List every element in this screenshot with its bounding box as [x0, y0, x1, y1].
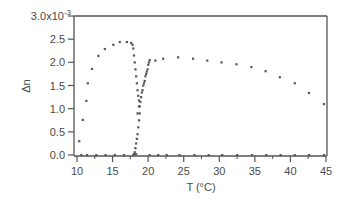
- chart: 1015202530354045 0.00.51.01.52.02.53.0x1…: [0, 0, 347, 203]
- data-point: [146, 68, 148, 70]
- data-point: [138, 119, 140, 121]
- x-axis-label: T (°C): [186, 181, 215, 193]
- data-point: [279, 154, 281, 156]
- data-point: [148, 61, 150, 63]
- data-point: [134, 147, 136, 149]
- data-point: [157, 154, 159, 156]
- data-point: [104, 48, 106, 50]
- data-point: [294, 82, 296, 84]
- data-point: [236, 154, 238, 156]
- data-point: [145, 73, 147, 75]
- data-point: [143, 82, 145, 84]
- data-point: [146, 71, 148, 73]
- data-point: [134, 61, 136, 63]
- data-point: [294, 154, 296, 156]
- data-point: [85, 100, 87, 102]
- data-point: [250, 66, 252, 68]
- data-point: [265, 154, 267, 156]
- y-tick-label: 2.5: [50, 33, 65, 45]
- x-tick-label: 15: [106, 165, 118, 177]
- data-point: [138, 105, 140, 107]
- x-tick-label: 45: [320, 165, 332, 177]
- data-point: [136, 138, 138, 140]
- data-point: [279, 76, 281, 78]
- data-point: [265, 70, 267, 72]
- data-point: [178, 154, 180, 156]
- data-point: [123, 154, 125, 156]
- plot-frame: [74, 16, 327, 156]
- data-point: [135, 75, 137, 77]
- data-points: [78, 41, 325, 156]
- data-point: [141, 91, 143, 93]
- data-point: [86, 154, 88, 156]
- data-point: [144, 75, 146, 77]
- data-point: [162, 58, 164, 60]
- data-point: [141, 89, 143, 91]
- y-tick-label: 0.0: [50, 149, 65, 161]
- data-point: [139, 101, 141, 103]
- data-point: [193, 154, 195, 156]
- data-point: [134, 68, 136, 70]
- data-point: [149, 59, 151, 61]
- data-point: [144, 80, 146, 82]
- data-point: [82, 119, 84, 121]
- y-tick-label: 2.0: [50, 56, 65, 68]
- data-point: [126, 41, 128, 43]
- y-tick-label: 3.0x10-3: [31, 8, 72, 22]
- data-point: [139, 112, 141, 114]
- data-point: [136, 112, 138, 114]
- x-tick-label: 30: [213, 165, 225, 177]
- data-point: [87, 82, 89, 84]
- x-axis-ticks: 1015202530354045: [71, 156, 332, 177]
- data-point: [323, 154, 325, 156]
- x-tick-label: 35: [249, 165, 261, 177]
- data-point: [112, 44, 114, 46]
- data-point: [177, 56, 179, 58]
- y-tick-label: 1.0: [50, 103, 65, 115]
- data-point: [133, 54, 135, 56]
- x-tick-label: 40: [284, 165, 296, 177]
- data-point: [251, 154, 253, 156]
- data-point: [104, 154, 106, 156]
- data-point: [137, 126, 139, 128]
- data-point: [131, 44, 133, 46]
- y-tick-label: 0.5: [50, 126, 65, 138]
- data-point: [149, 154, 151, 156]
- y-axis-ticks: 0.00.51.01.52.02.53.0x10-3: [31, 8, 74, 161]
- data-point: [136, 82, 138, 84]
- y-axis-label: Δn: [20, 79, 32, 92]
- data-point: [154, 59, 156, 61]
- y-tick-label: 1.5: [50, 80, 65, 92]
- data-point: [323, 103, 325, 105]
- data-point: [80, 154, 82, 156]
- data-point: [78, 140, 80, 142]
- data-point: [220, 61, 222, 63]
- data-point: [166, 154, 168, 156]
- data-point: [137, 95, 139, 97]
- data-point: [132, 47, 134, 49]
- data-point: [308, 154, 310, 156]
- data-point: [206, 59, 208, 61]
- data-point: [192, 58, 194, 60]
- x-tick-label: 10: [71, 165, 83, 177]
- data-point: [235, 63, 237, 65]
- data-point: [136, 133, 138, 135]
- data-point: [119, 41, 121, 43]
- data-point: [114, 154, 116, 156]
- data-point: [208, 154, 210, 156]
- data-point: [147, 64, 149, 66]
- data-point: [135, 153, 137, 155]
- data-point: [91, 68, 93, 70]
- data-point: [136, 89, 138, 91]
- data-point: [97, 55, 99, 57]
- data-point: [135, 142, 137, 144]
- data-point: [308, 92, 310, 94]
- data-point: [140, 96, 142, 98]
- data-point: [221, 154, 223, 156]
- y-exponent: -3: [64, 8, 72, 17]
- data-point: [132, 154, 134, 156]
- x-tick-label: 25: [178, 165, 190, 177]
- x-tick-label: 20: [142, 165, 154, 177]
- data-point: [142, 85, 144, 87]
- data-point: [95, 154, 97, 156]
